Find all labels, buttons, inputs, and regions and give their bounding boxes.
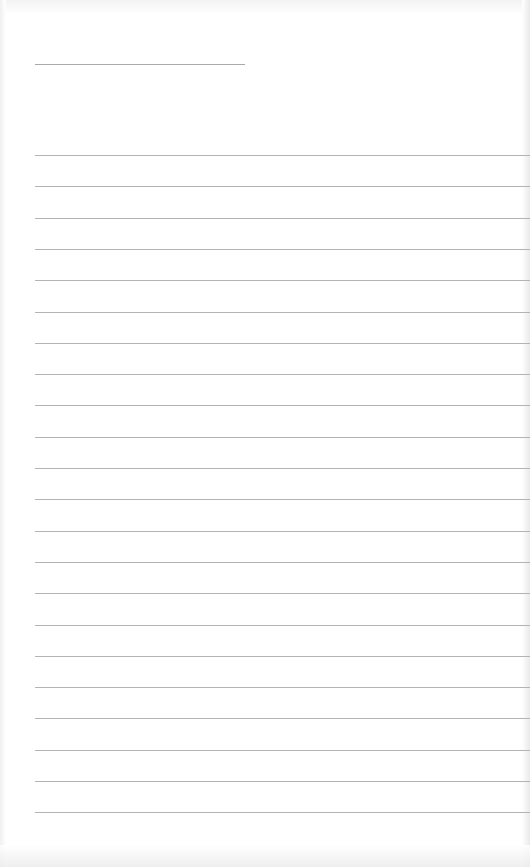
writing-line[interactable] bbox=[35, 625, 530, 626]
writing-line[interactable] bbox=[35, 374, 530, 375]
scan-edge-bottom bbox=[0, 845, 530, 867]
writing-line[interactable] bbox=[35, 593, 530, 594]
writing-line[interactable] bbox=[35, 562, 530, 563]
writing-line[interactable] bbox=[35, 750, 530, 751]
writing-line[interactable] bbox=[35, 468, 530, 469]
scan-edge-top bbox=[0, 0, 530, 14]
lined-page bbox=[0, 0, 530, 867]
writing-line[interactable] bbox=[35, 155, 530, 156]
name-line[interactable] bbox=[35, 64, 245, 65]
writing-line[interactable] bbox=[35, 186, 530, 187]
writing-line[interactable] bbox=[35, 437, 530, 438]
scan-edge-right bbox=[522, 0, 530, 867]
writing-line[interactable] bbox=[35, 218, 530, 219]
scan-edge-left bbox=[0, 0, 6, 867]
writing-line[interactable] bbox=[35, 531, 530, 532]
writing-line[interactable] bbox=[35, 312, 530, 313]
writing-line[interactable] bbox=[35, 280, 530, 281]
writing-line[interactable] bbox=[35, 687, 530, 688]
writing-line[interactable] bbox=[35, 718, 530, 719]
writing-line[interactable] bbox=[35, 343, 530, 344]
writing-line[interactable] bbox=[35, 781, 530, 782]
writing-line[interactable] bbox=[35, 812, 530, 813]
writing-line[interactable] bbox=[35, 249, 530, 250]
writing-line[interactable] bbox=[35, 499, 530, 500]
writing-line[interactable] bbox=[35, 656, 530, 657]
writing-line[interactable] bbox=[35, 405, 530, 406]
